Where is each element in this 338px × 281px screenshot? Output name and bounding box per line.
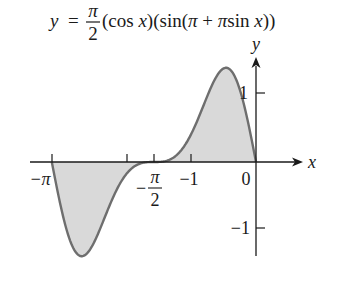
title-lhs: y [48, 10, 59, 31]
x-tick-label-neg-pi-half-sign: − [136, 178, 146, 198]
title-rest: (cos x)(sin(π + πsin x)) [102, 10, 275, 32]
x-axis-label: x [307, 152, 316, 172]
y-tick-label-one: 1 [239, 83, 248, 103]
x-tick-label-neg-one: −1 [179, 169, 198, 189]
equation-title: y = π 2 (cos x)(sin(π + πsin x)) [48, 0, 275, 44]
x-tick-label-neg-pi-half-num: π [150, 167, 160, 187]
x-tick-label-neg-pi: −π [29, 169, 51, 189]
title-equals: = [68, 10, 79, 31]
title-frac-num: π [88, 0, 98, 21]
x-tick-label-zero: 0 [242, 169, 251, 189]
svg-text:y =: y = [48, 10, 79, 31]
x-tick-label-neg-pi-half-den: 2 [151, 190, 160, 210]
y-axis-label: y [250, 34, 260, 54]
function-graph: y = π 2 (cos x)(sin(π + πsin x)) x −π − … [0, 0, 338, 281]
title-frac-den: 2 [88, 23, 98, 44]
y-tick-label-neg-one: −1 [231, 218, 250, 238]
